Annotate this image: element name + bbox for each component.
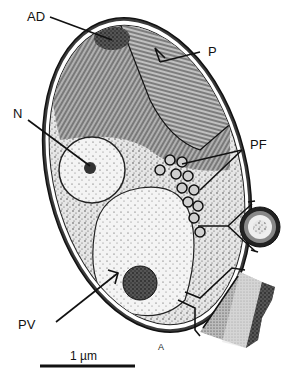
pf-cross-section-inset xyxy=(240,207,280,247)
cell-diagram: A AD P N PF PV 1 µm xyxy=(0,0,290,379)
scale-bar-label: 1 µm xyxy=(70,350,97,362)
label-ad: AD xyxy=(27,10,45,23)
label-p: P xyxy=(208,45,217,58)
dark-body xyxy=(123,266,157,300)
label-pv: PV xyxy=(18,318,35,331)
label-pf: PF xyxy=(250,138,267,151)
label-n: N xyxy=(13,107,22,120)
artist-signature: A xyxy=(158,342,164,352)
